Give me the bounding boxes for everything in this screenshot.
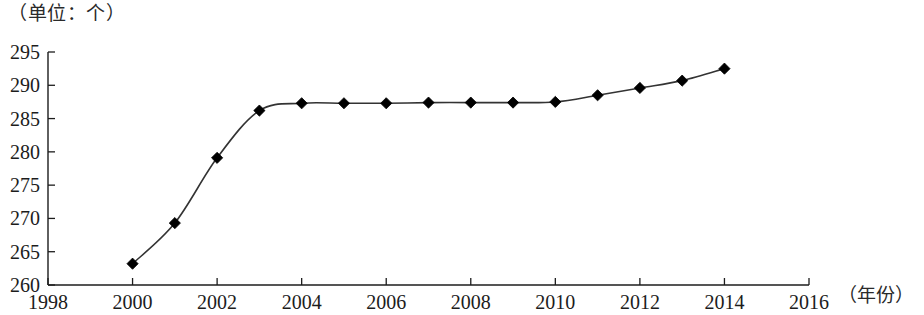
data-point-marker: 2012: 289.6	[634, 82, 645, 93]
x-axis-tick-label: 2008	[451, 291, 491, 313]
x-axis-tick-label-group: 1998200020022004200620082010201220142016	[28, 291, 829, 313]
data-point-marker: 2005: 287.3	[338, 98, 349, 109]
x-axis-tick-label: 2006	[366, 291, 406, 313]
tick-marks-group	[48, 52, 809, 285]
y-axis-tick-label: 275	[10, 174, 40, 196]
data-point-marker: 2007: 287.4	[423, 97, 434, 108]
data-point-marker: 2006: 287.3	[381, 98, 392, 109]
data-point-marker: 2009: 287.4	[507, 97, 518, 108]
x-axis-tick-label: 2002	[197, 291, 237, 313]
x-axis-title-label: （年份）	[838, 285, 914, 307]
x-axis-tick-label: 2000	[113, 291, 153, 313]
data-point-marker: 2003: 286.2	[254, 105, 265, 116]
y-axis-tick-label: 285	[10, 108, 40, 130]
x-axis-tick-label: 1998	[28, 291, 68, 313]
y-axis-tick-label: 295	[10, 41, 40, 63]
x-axis-tick-label: 2014	[704, 291, 744, 313]
x-axis-tick-label: 2016	[789, 291, 829, 313]
y-axis-tick-label: 270	[10, 207, 40, 229]
data-point-marker: 2008: 287.4	[465, 97, 476, 108]
x-axis-tick-label: 2012	[620, 291, 660, 313]
axis-lines-group	[48, 52, 809, 285]
data-point-marker: 2014: 292.5	[719, 63, 730, 74]
series-marker-group: 2000: 263.22001: 269.32002: 279.12003: 2…	[127, 63, 730, 269]
x-axis-tick-label: 2004	[282, 291, 322, 313]
y-axis-tick-label: 265	[10, 241, 40, 263]
line-chart-plot: 260265270275280285290295 199820002002200…	[0, 0, 924, 315]
y-axis-tick-label-group: 260265270275280285290295	[10, 41, 40, 296]
chart-container: （单位：个） 260265270275280285290295 19982000…	[0, 0, 924, 315]
data-point-marker: 2010: 287.5	[550, 96, 561, 107]
x-axis-tick-label: 2010	[535, 291, 575, 313]
data-point-marker: 2013: 290.7	[677, 75, 688, 86]
data-point-marker: 2011: 288.5	[592, 90, 603, 101]
data-point-marker: 2004: 287.3	[296, 98, 307, 109]
y-axis-tick-label: 290	[10, 74, 40, 96]
y-axis-tick-label: 280	[10, 141, 40, 163]
